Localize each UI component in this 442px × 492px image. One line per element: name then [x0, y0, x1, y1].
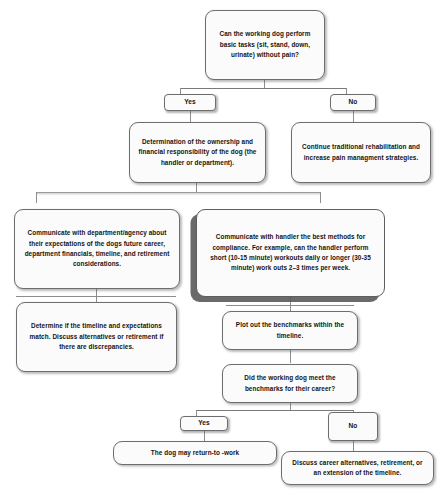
node-communicate-department[interactable]: Communicate with department/agency about…: [14, 209, 180, 289]
label-yes-1-text: Yes: [169, 97, 211, 108]
node-discuss-alternatives[interactable]: Discuss career alternatives, retirement,…: [281, 451, 434, 485]
label-yes-2[interactable]: Yes: [180, 416, 228, 431]
node-continue-rehabilitation-label: Continue traditional rehabilitation and …: [299, 142, 423, 163]
connector-yes2-down: [204, 430, 205, 441]
connector-q1-split-bar: [180, 88, 347, 89]
node-question-basic-tasks-label: Can the working dog perform basic tasks …: [213, 29, 317, 60]
node-communicate-handler[interactable]: Communicate with handler the best method…: [196, 209, 385, 297]
connector-communicate-split-bar: [36, 192, 321, 193]
node-question-basic-tasks[interactable]: Can the working dog perform basic tasks …: [205, 10, 325, 80]
connector-comm-dept-down: [96, 288, 97, 302]
node-ownership-determination[interactable]: Determination of the ownership and finan…: [129, 122, 266, 183]
connector-q2-split-bar: [196, 410, 354, 411]
node-question-met-benchmarks[interactable]: Did the working dog meet the benchmarks …: [222, 364, 358, 403]
node-communicate-handler-label: Communicate with handler the best method…: [204, 232, 377, 274]
node-question-met-benchmarks-label: Did the working dog meet the benchmarks …: [230, 373, 350, 394]
label-yes-1[interactable]: Yes: [164, 94, 216, 111]
node-discuss-alternatives-label: Discuss career alternatives, retirement,…: [289, 458, 426, 479]
connector-comm-handler-down: [290, 296, 291, 311]
connector-comm-dept-bar: [16, 296, 176, 297]
label-no-1[interactable]: No: [330, 94, 376, 111]
connector-split-to-right: [320, 192, 321, 203]
node-timeline-expectations-match-label: Determine if the timeline and expectatio…: [24, 321, 169, 352]
node-plot-benchmarks-label: Plot out the benchmarks within the timel…: [230, 320, 350, 341]
label-yes-2-text: Yes: [185, 418, 223, 429]
label-no-2-text: No: [333, 421, 373, 432]
node-continue-rehabilitation[interactable]: Continue traditional rehabilitation and …: [291, 122, 431, 183]
connector-split-to-left: [36, 192, 37, 203]
node-timeline-expectations-match[interactable]: Determine if the timeline and expectatio…: [16, 302, 177, 372]
node-communicate-department-label: Communicate with department/agency about…: [22, 228, 172, 270]
label-no-2[interactable]: No: [328, 412, 378, 441]
flowchart-canvas: Can the working dog perform basic tasks …: [0, 0, 442, 492]
node-return-to-work[interactable]: The dog may return-to -work: [113, 441, 277, 465]
node-ownership-determination-label: Determination of the ownership and finan…: [137, 137, 258, 168]
connector-no1-down: [353, 110, 354, 122]
node-return-to-work-label: The dog may return-to -work: [121, 448, 269, 458]
connector-comm-handler-bar: [226, 305, 354, 306]
connector-yes1-down: [190, 110, 191, 122]
label-no-1-text: No: [335, 97, 371, 108]
node-plot-benchmarks[interactable]: Plot out the benchmarks within the timel…: [222, 311, 358, 350]
connector-benchmarks-down: [290, 350, 291, 363]
connector-no2-down: [353, 440, 354, 451]
